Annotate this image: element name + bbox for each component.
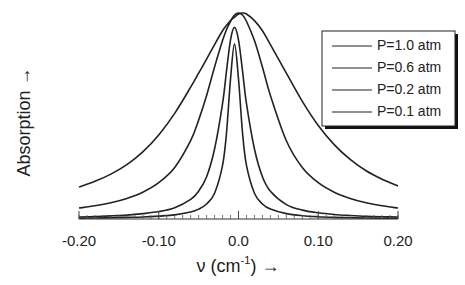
absorption-chart: -0.20-0.100.00.100.20 ν (cm-1) → Absorpt… (0, 0, 465, 285)
y-axis-label: Absorption → (14, 67, 34, 176)
x-axis-label: ν (cm-1) → (197, 254, 280, 276)
legend-label: P=0.1 atm (377, 103, 441, 119)
legend-label: P=0.6 atm (377, 59, 441, 75)
x-tick-label: -0.10 (142, 232, 176, 249)
x-axis-label-tail: ) → (250, 256, 279, 276)
legend: P=1.0 atmP=0.6 atmP=0.2 atmP=0.1 atm (322, 31, 458, 129)
x-tick-label: -0.20 (62, 232, 96, 249)
legend-label: P=0.2 atm (377, 81, 441, 97)
x-axis-label-base: ν (cm (197, 256, 241, 276)
x-tick-label: 0.10 (304, 232, 333, 249)
x-tick-label: 0.20 (383, 232, 412, 249)
x-tick-labels: -0.20-0.100.00.100.20 (62, 232, 413, 249)
legend-label: P=1.0 atm (377, 37, 441, 53)
x-tick-label: 0.0 (228, 232, 249, 249)
x-axis-label-superscript: -1 (241, 254, 251, 266)
